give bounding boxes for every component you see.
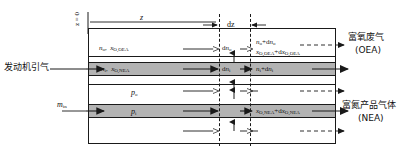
arrow-overlay — [0, 0, 414, 160]
diagram-canvas: z = 0 z dz no, xO,OEA ni, xO,NEA po pi d… — [0, 0, 414, 160]
